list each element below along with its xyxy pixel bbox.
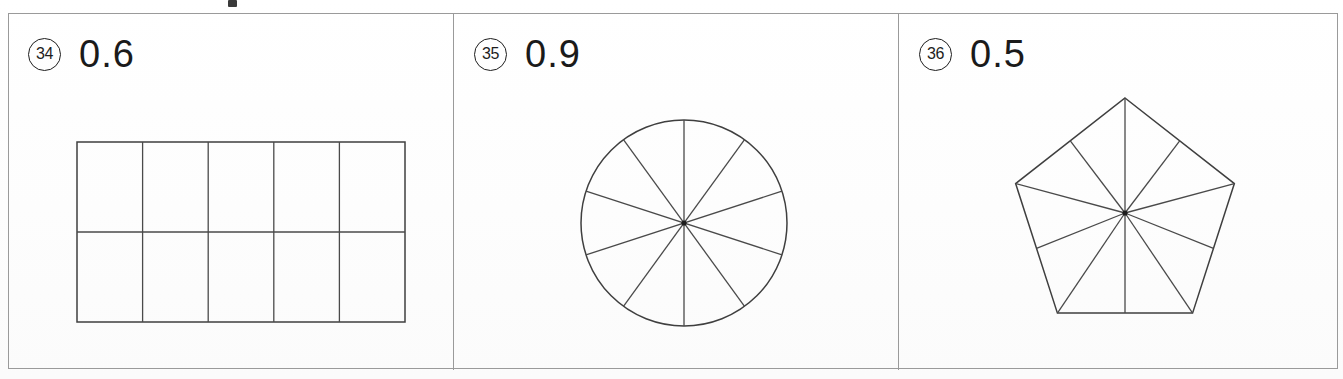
problem-panel-36[interactable]: 36 0.5 bbox=[899, 13, 1339, 369]
worksheet-sheet: 34 0.6 35 0.9 bbox=[0, 0, 1343, 379]
decimal-value-label: 0.6 bbox=[79, 35, 135, 73]
item-number-badge: 36 bbox=[919, 38, 952, 71]
decimal-value-label: 0.5 bbox=[970, 35, 1026, 73]
item-number-badge: 35 bbox=[474, 38, 507, 71]
problem-panel-35[interactable]: 35 0.9 bbox=[454, 13, 899, 369]
problem-panel-34[interactable]: 34 0.6 bbox=[8, 13, 454, 369]
problem-header-34: 34 0.6 bbox=[28, 35, 135, 73]
problem-header-36: 36 0.5 bbox=[919, 35, 1026, 73]
item-number-badge: 34 bbox=[28, 38, 61, 71]
cut-off-heading-fragment bbox=[228, 0, 237, 7]
problem-header-35: 35 0.9 bbox=[474, 35, 581, 73]
decimal-value-label: 0.9 bbox=[525, 35, 581, 73]
